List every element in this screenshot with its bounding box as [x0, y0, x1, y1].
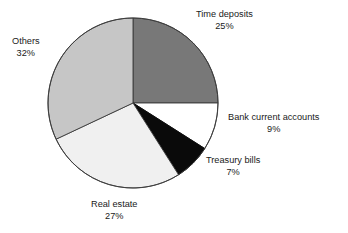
- pie-label-others-value: 32%: [12, 48, 40, 60]
- pie-label-bank-current-accounts: Bank current accounts 9%: [228, 112, 319, 135]
- pie-label-real-estate: Real estate 27%: [91, 199, 137, 222]
- pie-label-time-deposits: Time deposits 25%: [196, 9, 253, 32]
- pie-label-bank-current-accounts-name: Bank current accounts: [228, 112, 319, 124]
- pie-label-time-deposits-name: Time deposits: [196, 9, 253, 21]
- pie-label-treasury-bills: Treasury bills 7%: [206, 155, 260, 178]
- pie-label-others: Others 32%: [12, 36, 40, 59]
- pie-label-real-estate-name: Real estate: [91, 199, 137, 211]
- pie-label-time-deposits-value: 25%: [196, 21, 253, 33]
- pie-label-treasury-bills-name: Treasury bills: [206, 155, 260, 167]
- pie-slice-group: [48, 18, 218, 188]
- pie-label-bank-current-accounts-value: 9%: [228, 124, 319, 136]
- pie-label-real-estate-value: 27%: [91, 211, 137, 223]
- pie-label-treasury-bills-value: 7%: [206, 167, 260, 179]
- pie-label-others-name: Others: [12, 36, 40, 48]
- pie-chart-figure: Time deposits 25% Bank current accounts …: [0, 0, 348, 233]
